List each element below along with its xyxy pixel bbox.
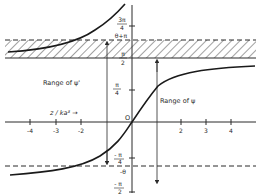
- x-tick-label: -4: [27, 127, 33, 134]
- x-tick-label: 2: [179, 127, 183, 134]
- annotation-range-psi-prime: Range of ψ': [43, 79, 80, 87]
- y-label-pi-2-den: 2: [121, 59, 125, 66]
- y-label-3pi-4-num: 3π: [118, 16, 126, 23]
- y-label-neg-theta: -θ: [120, 168, 126, 175]
- x-axis-label: z / ka³ →: [49, 109, 78, 117]
- diagram-canvas: -4 -3 -2 2 3 4 z / ka³ → O 3π 4 θ+π π 2 …: [0, 0, 258, 196]
- x-tick-label: -2: [78, 127, 84, 134]
- y-label-neg-pi-2-den: 2: [118, 188, 122, 195]
- y-label-neg-pi-2-num: - π: [114, 180, 122, 187]
- y-label-3pi-4-den: 4: [120, 24, 124, 31]
- y-label-pi-4-den: 4: [115, 89, 119, 96]
- y-label-pi-2-num: π: [121, 50, 125, 57]
- y-label-theta-plus-pi: θ+π: [115, 32, 128, 39]
- x-tick-label: 4: [229, 127, 233, 134]
- origin-label: O: [125, 114, 130, 122]
- x-tick-label: 3: [204, 127, 208, 134]
- y-label-neg-pi-4-den: 4: [118, 158, 122, 165]
- y-label-pi-4-num: π: [115, 81, 119, 88]
- y-label-neg-pi-4-num: - π: [114, 151, 122, 158]
- x-tick-label: -3: [53, 127, 59, 134]
- annotation-range-psi: Range of ψ: [160, 97, 195, 105]
